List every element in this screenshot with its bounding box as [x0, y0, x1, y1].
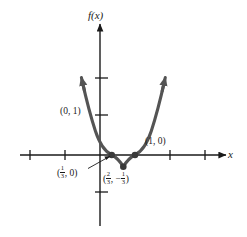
- graph-canvas: [0, 0, 247, 237]
- vertex-separator: , −: [111, 174, 121, 184]
- point-vertex: [120, 163, 127, 170]
- label-y-intercept: (0, 1): [60, 107, 81, 117]
- x-axis-label: x: [228, 149, 233, 160]
- point-x-intercept-right: [132, 152, 139, 159]
- y-axis-label: f(x): [88, 10, 103, 21]
- parabola-curve: [83, 82, 165, 166]
- vertex-paren-close: ): [126, 174, 129, 184]
- label-x-intercept-right: (1, 0): [145, 137, 166, 147]
- paren-close: , 0): [65, 168, 78, 178]
- graph-figure: f(x) x (0, 1) (1, 0) (13, 0) (23, −13): [0, 0, 247, 237]
- label-vertex: (23, −13): [103, 171, 129, 186]
- label-x-intercept-left: (13, 0): [57, 165, 78, 180]
- curve-arrow-right: [162, 78, 165, 92]
- leader-arrowhead-x-intercept-left: [104, 156, 110, 160]
- point-x-intercept-left: [108, 152, 115, 159]
- curve-arrow-left: [81, 78, 84, 92]
